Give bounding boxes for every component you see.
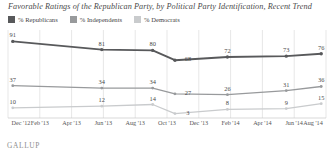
gallup-line-chart: Favorable Ratings of the Republican Part… [0,0,334,155]
data-point[interactable] [320,52,323,55]
data-point[interactable] [226,55,229,58]
gallup-logo: GALLUP [7,141,40,150]
x-axis-tick-label: Oct '13 [158,119,176,126]
legend-label: % Republicans [18,16,58,23]
x-axis-tick-label: Aug '14 [303,119,323,126]
chart-title: Favorable Ratings of the Republican Part… [8,2,312,11]
data-point[interactable] [320,102,323,105]
legend-label: % Democrats [144,16,180,23]
data-point[interactable] [100,105,103,108]
data-point[interactable] [174,112,177,115]
data-point[interactable] [173,59,176,62]
legend-label: % Independents [80,16,122,23]
legend-item-republicans[interactable]: % Republicans [8,16,58,23]
gridlines [8,30,326,118]
x-axis-tick-label: Dec '13 [189,119,208,126]
data-point[interactable] [174,92,177,95]
data-point[interactable] [226,108,229,111]
legend-item-democrats[interactable]: % Democrats [134,16,180,23]
data-point[interactable] [285,89,288,92]
data-point[interactable] [285,107,288,110]
data-point[interactable] [11,84,14,87]
x-axis-tick-label: Jun '13 [95,119,112,126]
data-point[interactable] [151,103,154,106]
x-axis-tick-label: Feb '13 [31,119,49,126]
x-axis-tick-label: Jun '14 [285,119,302,126]
data-point[interactable] [100,87,103,90]
x-axis-tick-label: Apr '13 [62,119,80,126]
data-point[interactable] [11,106,14,109]
data-point[interactable] [151,49,154,52]
legend-swatch-republicans-icon [8,16,15,23]
legend-swatch-democrats-icon [134,16,141,23]
plot-svg [8,30,326,118]
legend-swatch-independents-icon [70,16,77,23]
x-axis: Dec '12Feb '13Apr '13Jun '13Aug '13Oct '… [8,119,326,131]
legend-item-independents[interactable]: % Independents [70,16,122,23]
data-point[interactable] [226,93,229,96]
data-point[interactable] [151,87,154,90]
x-axis-tick-label: Dec '12 [12,119,31,126]
plot-area [8,30,326,118]
x-axis-tick-label: Apr '14 [253,119,271,126]
data-point[interactable] [320,85,323,88]
data-point[interactable] [285,54,288,57]
chart-legend: % Republicans% Independents% Democrats [8,16,180,23]
x-axis-tick-label: Aug '13 [125,119,145,126]
x-axis-tick-label: Feb '14 [222,119,240,126]
data-point[interactable] [11,40,14,43]
data-point[interactable] [100,48,103,51]
